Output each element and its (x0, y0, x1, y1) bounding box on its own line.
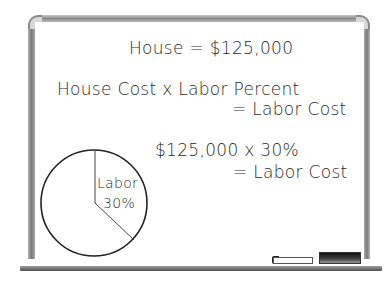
eraser-icon (319, 252, 361, 264)
frame-top (38, 15, 360, 22)
pie-label: Labor (97, 175, 138, 191)
marker-icon (273, 257, 313, 264)
calculation-line-2: = Labor Cost (233, 162, 348, 182)
house-value-text: House = $125,000 (129, 38, 293, 58)
calculation-line-1: $125,000 x 30% (155, 140, 299, 160)
formula-line-2: = Labor Cost (232, 99, 347, 119)
pie-value: 30% (103, 195, 135, 211)
frame-right (364, 23, 370, 259)
frame-left (28, 23, 35, 259)
formula-line-1: House Cost x Labor Percent (57, 79, 300, 99)
marker-tray (20, 266, 382, 271)
